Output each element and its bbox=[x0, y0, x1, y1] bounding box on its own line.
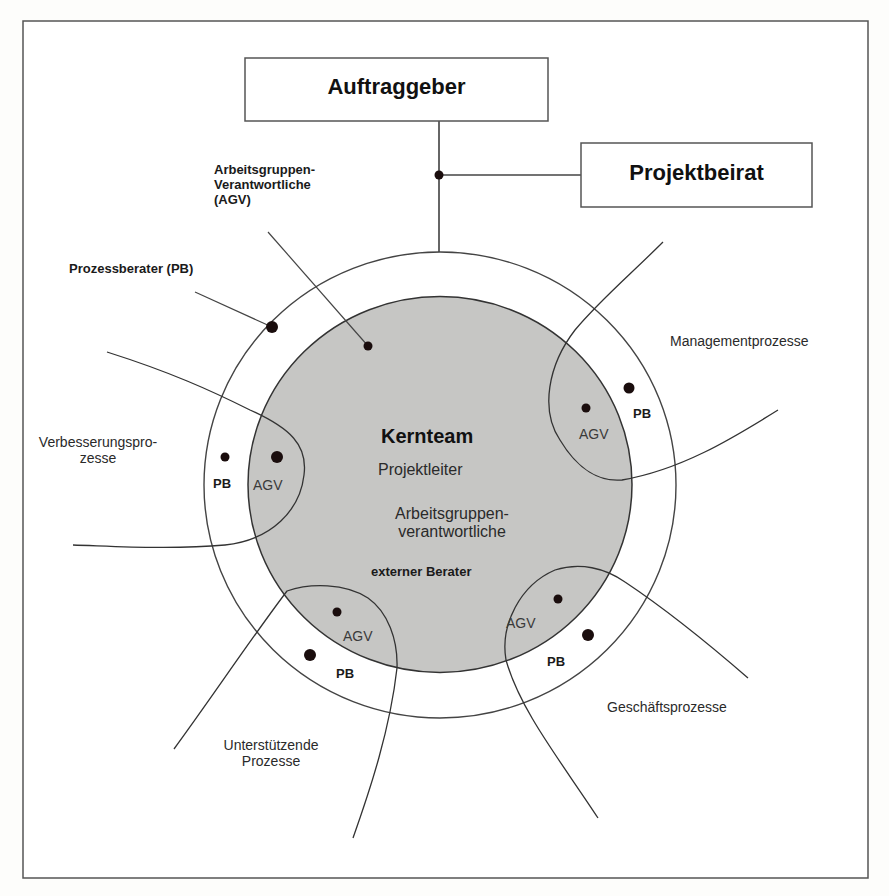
business-agv-dot bbox=[554, 595, 563, 604]
improvement-process-line-2: zesse bbox=[28, 450, 168, 466]
improvement-agv-dot bbox=[271, 451, 283, 463]
management-pb-dot bbox=[624, 383, 635, 394]
business-agv-label: AGV bbox=[506, 615, 536, 631]
improvement-process-label: Verbesserungspro- zesse bbox=[28, 434, 168, 466]
business-pb-label: PB bbox=[547, 655, 565, 670]
support-process-label: Unterstützende Prozesse bbox=[210, 737, 332, 769]
client-box-label: Auftraggeber bbox=[245, 74, 548, 100]
core-team-workgroup-line-2: verantwortliche bbox=[364, 523, 540, 541]
agv-callout-line-1: Arbeitsgruppen- bbox=[214, 163, 315, 178]
business-process-label: Geschäftsprozesse bbox=[607, 699, 727, 715]
support-process-line-1: Unterstützende bbox=[210, 737, 332, 753]
management-process-label: Managementprozesse bbox=[670, 333, 809, 349]
core-team-workgroup-leads: Arbeitsgruppen- verantwortliche bbox=[364, 505, 540, 542]
improvement-process-line-1: Verbesserungspro- bbox=[28, 434, 168, 450]
core-team-project-lead: Projektleiter bbox=[378, 461, 462, 479]
core-team-external-consultant: externer Berater bbox=[371, 565, 471, 580]
management-agv-dot bbox=[582, 404, 591, 413]
support-process-line-2: Prozesse bbox=[210, 753, 332, 769]
support-pb-label: PB bbox=[336, 667, 354, 682]
support-pb-dot bbox=[304, 649, 316, 661]
core-team-circle bbox=[248, 297, 632, 673]
agv-callout-dot bbox=[364, 342, 373, 351]
pb-callout-label: Prozessberater (PB) bbox=[69, 262, 193, 277]
pb-callout-dot bbox=[266, 321, 278, 333]
agv-callout-label: Arbeitsgruppen- Verantwortliche (AGV) bbox=[214, 163, 315, 208]
junction-dot bbox=[435, 171, 444, 180]
core-team-title: Kernteam bbox=[381, 425, 473, 448]
improvement-pb-label: PB bbox=[213, 477, 231, 492]
agv-callout-line-3: (AGV) bbox=[214, 193, 315, 208]
business-pb-dot bbox=[582, 629, 594, 641]
advisory-board-box-label: Projektbeirat bbox=[581, 160, 812, 186]
support-agv-dot bbox=[333, 608, 342, 617]
core-team-workgroup-line-1: Arbeitsgruppen- bbox=[364, 505, 540, 523]
agv-callout-line-2: Verantwortliche bbox=[214, 178, 315, 193]
improvement-pb-dot bbox=[221, 453, 230, 462]
support-agv-label: AGV bbox=[343, 628, 373, 644]
improvement-agv-label: AGV bbox=[253, 477, 283, 493]
management-pb-label: PB bbox=[633, 407, 651, 422]
management-agv-label: AGV bbox=[579, 426, 609, 442]
